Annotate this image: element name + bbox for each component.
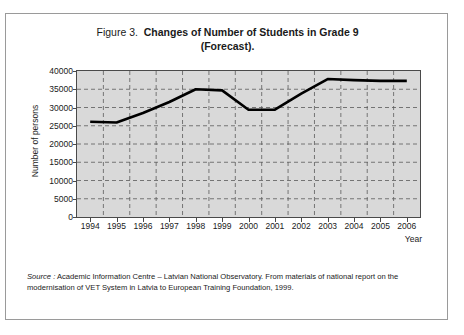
x-axis-tick-mark bbox=[301, 218, 302, 222]
x-axis-tick-mark bbox=[117, 218, 118, 222]
x-axis-title: Year bbox=[330, 234, 422, 244]
y-axis-tick-label: 5000 bbox=[31, 195, 73, 203]
line-chart: Number of persons 0500010000150002000025… bbox=[30, 66, 426, 262]
x-axis-tick-mark bbox=[90, 218, 91, 222]
figure-title-prefix: Figure 3. bbox=[97, 26, 138, 38]
source-text: Academic Information Centre – Latvian Na… bbox=[27, 272, 398, 292]
figure-title-line-2: (Forecast). bbox=[6, 39, 449, 53]
x-axis-tick-label: 2006 bbox=[390, 221, 424, 231]
y-axis-tick-label: 40000 bbox=[31, 67, 73, 75]
y-axis-tick-labels: 0500010000150002000025000300003500040000 bbox=[30, 70, 73, 218]
x-axis-tick-mark bbox=[143, 218, 144, 222]
data-series-line bbox=[90, 79, 407, 122]
x-axis-tick-mark bbox=[407, 218, 408, 222]
x-axis-tick-mark bbox=[354, 218, 355, 222]
y-axis-tick-label: 30000 bbox=[31, 104, 73, 112]
y-axis-tick-label: 15000 bbox=[31, 158, 73, 166]
y-axis-tick-label: 10000 bbox=[31, 177, 73, 185]
y-axis-tick-label: 20000 bbox=[31, 140, 73, 148]
figure-title: Figure 3. Changes of Number of Students … bbox=[6, 25, 449, 53]
source-label: Source : bbox=[27, 272, 55, 281]
x-axis-tick-mark bbox=[328, 218, 329, 222]
x-axis-tick-mark bbox=[380, 218, 381, 222]
y-axis-tick-label: 35000 bbox=[31, 85, 73, 93]
source-note: Source : Academic Information Centre – L… bbox=[27, 272, 432, 293]
figure-card: Figure 3. Changes of Number of Students … bbox=[5, 13, 448, 320]
y-axis-tick-label: 25000 bbox=[31, 122, 73, 130]
plot-area bbox=[76, 70, 421, 218]
x-axis-tick-mark bbox=[249, 218, 250, 222]
x-axis-tick-mark bbox=[169, 218, 170, 222]
x-axis-tick-mark bbox=[275, 218, 276, 222]
figure-title-line-1: Figure 3. Changes of Number of Students … bbox=[6, 25, 449, 39]
x-axis-tick-mark bbox=[196, 218, 197, 222]
plot-svg bbox=[77, 71, 420, 217]
x-axis-tick-labels: 1994199519961997199819992000200120022003… bbox=[76, 221, 421, 235]
x-axis-tick-mark bbox=[222, 218, 223, 222]
y-axis-tick-label: 0 bbox=[31, 213, 73, 221]
figure-title-main: Changes of Number of Students in Grade 9 bbox=[138, 26, 359, 38]
